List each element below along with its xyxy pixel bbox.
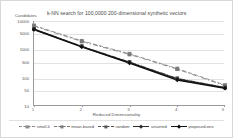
legend-item-small-k[interactable]: small-k [19, 124, 49, 129]
y-tick-label: 100 [22, 77, 29, 81]
y-tick-label: 500 [22, 61, 29, 65]
y-tick-label: 10000 [17, 20, 29, 24]
x-axis-title: Reduced Dimensionality [1, 112, 232, 117]
data-point-mean-based [175, 67, 179, 71]
chart-legend: small-k mean-based random unsorted propo… [9, 120, 224, 132]
legend-marker-icon [133, 124, 149, 129]
legend-marker-icon [19, 124, 35, 129]
legend-point-icon [176, 124, 181, 129]
y-axis-title: Candidates [15, 13, 37, 18]
legend-marker-icon [98, 124, 114, 129]
data-point-mean-based [80, 40, 84, 44]
series-layer [34, 21, 225, 106]
legend-item-label: proposed-one [188, 124, 213, 129]
legend-item-random[interactable]: random [98, 124, 129, 129]
legend-point-icon [26, 125, 29, 128]
legend-item-unsorted[interactable]: unsorted [133, 124, 166, 129]
y-tick-label: 10 [24, 105, 29, 109]
legend-item-proposed-one[interactable]: proposed-one [171, 124, 214, 129]
series-line-random [34, 29, 225, 87]
y-axis-tick-labels: 10000 5000 1000 500 100 50 10 [1, 21, 31, 106]
legend-point-icon [139, 124, 144, 129]
legend-item-mean-based[interactable]: mean-based [54, 124, 94, 129]
chart-title: k-NN search for 100,0000 200-dimensional… [47, 10, 186, 16]
plot-area [33, 21, 224, 106]
legend-point-icon [104, 125, 107, 128]
legend-item-label: small-k [37, 124, 50, 129]
legend-item-label: random [116, 124, 130, 129]
legend-point-icon [60, 125, 63, 128]
series-line-proposed-one [34, 30, 225, 89]
series-line-unsorted [34, 29, 225, 87]
series-markers [32, 23, 227, 90]
y-tick-label: 1000 [20, 48, 29, 52]
y-tick-label: 5000 [20, 32, 29, 36]
legend-marker-icon [54, 124, 70, 129]
chart-container: Candidates k-NN search for 100,0000 200-… [0, 0, 233, 138]
legend-item-label: unsorted [151, 124, 167, 129]
series-paths [34, 25, 225, 88]
legend-marker-icon [171, 124, 187, 129]
data-point-mean-based [128, 53, 132, 57]
y-tick-label: 50 [24, 89, 29, 93]
legend-item-label: mean-based [71, 124, 94, 129]
